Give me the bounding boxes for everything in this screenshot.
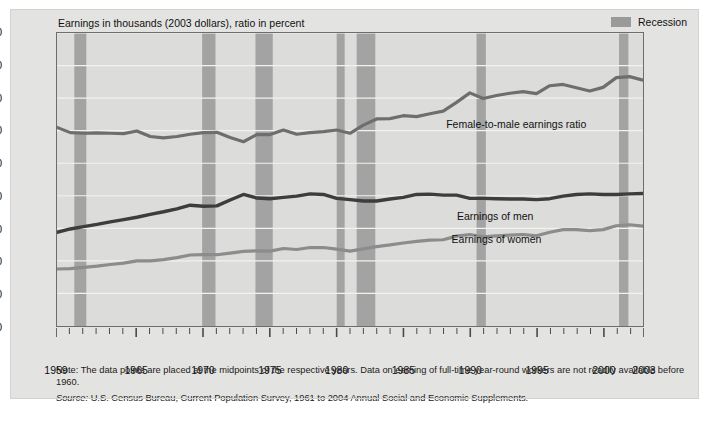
- recession-band: [255, 33, 272, 326]
- chart-subtitle: Earnings in thousands (2003 dollars), ra…: [58, 17, 304, 29]
- source-text: U.S. Census Bureau, Current Population S…: [91, 393, 529, 403]
- chart-notes: Note: The data points are placed at the …: [56, 364, 686, 404]
- plot-canvas: [56, 32, 644, 327]
- y-tick-label: 90: [0, 26, 2, 38]
- y-tick-label: 40: [0, 190, 2, 202]
- y-tick-label: 60: [0, 124, 2, 136]
- annotation-women: Earnings of women: [452, 233, 542, 245]
- series-line: [57, 77, 643, 142]
- y-tick-label: 0: [0, 321, 2, 333]
- recession-band: [337, 33, 345, 326]
- series-line: [57, 193, 643, 232]
- plot-area: 0102030405060708090 19591965197019751980…: [56, 32, 644, 327]
- y-tick-label: 80: [0, 59, 2, 71]
- recession-band: [202, 33, 215, 326]
- source-line: Source: U.S. Census Bureau, Current Popu…: [56, 392, 686, 404]
- recession-band: [477, 33, 486, 326]
- y-tick-label: 10: [0, 288, 2, 300]
- y-tick-label: 50: [0, 157, 2, 169]
- y-tick-label: 20: [0, 255, 2, 267]
- source-label: Source:: [56, 393, 88, 403]
- legend-recession: Recession: [611, 16, 687, 28]
- recession-band: [74, 33, 86, 326]
- annotation-men: Earnings of men: [457, 210, 533, 222]
- note-text: Note: The data points are placed at the …: [56, 364, 686, 389]
- recession-swatch-icon: [611, 17, 631, 27]
- annotation-ratio: Female-to-male earnings ratio: [446, 118, 586, 130]
- y-tick-label: 70: [0, 92, 2, 104]
- y-tick-label: 30: [0, 223, 2, 235]
- series-line: [57, 225, 643, 269]
- chart-svg: [57, 33, 643, 326]
- x-axis-ticks: [56, 328, 644, 340]
- chart-figure: Median Annual Earnings, 1998 Dollars (th…: [10, 9, 699, 399]
- legend-label-recession: Recession: [638, 16, 687, 28]
- recession-band: [357, 33, 376, 326]
